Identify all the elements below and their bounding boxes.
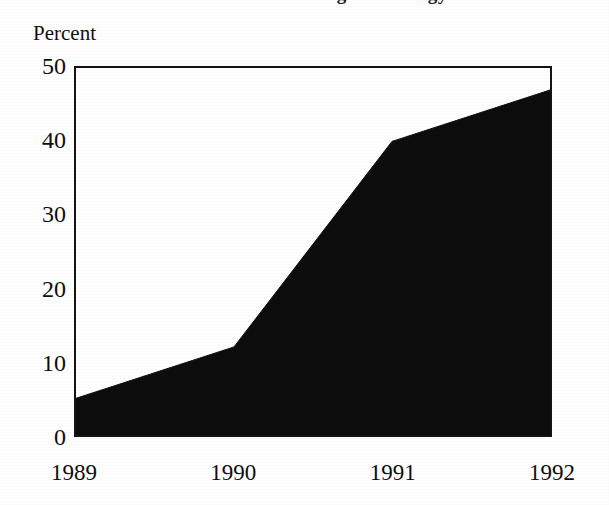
chart-figure: Percent of Sites Using Technology Percen…: [0, 0, 609, 505]
x-tick-label: 1991: [338, 460, 448, 486]
x-tick-label: 1992: [497, 460, 607, 486]
x-tick-label: 1990: [178, 460, 288, 486]
x-axis-ticks: 1989199019911992: [0, 0, 609, 505]
x-tick-label: 1989: [19, 460, 129, 486]
